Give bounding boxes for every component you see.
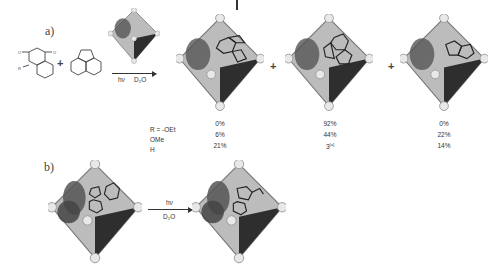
row-label-ome: OMe bbox=[150, 136, 164, 143]
yield-cell: 0% bbox=[429, 120, 459, 127]
condition-light-b: hν bbox=[166, 199, 173, 206]
octahedral-cage-icon bbox=[108, 8, 160, 64]
cage-catalyst-small bbox=[108, 8, 160, 64]
product-cage-3 bbox=[400, 14, 488, 112]
octahedral-cage-icon bbox=[400, 14, 488, 112]
row-label-oet: R = -OEt bbox=[150, 126, 175, 133]
page-edge-mark bbox=[236, 0, 238, 10]
yield-cell: 92% bbox=[315, 120, 345, 127]
product-cage-2 bbox=[285, 14, 373, 112]
reactant-acenaphthylene bbox=[69, 46, 103, 84]
condition-solvent-b: D₂O bbox=[163, 213, 175, 220]
svg-text:O: O bbox=[53, 50, 56, 55]
condition-light: hν bbox=[118, 76, 125, 83]
row-label-h: H bbox=[150, 146, 155, 153]
acenaphthylene-structure-icon bbox=[69, 46, 103, 80]
product-cage-b bbox=[192, 160, 286, 264]
reactant-naphthoquinone: O O R bbox=[15, 45, 60, 87]
plus-sign: + bbox=[388, 60, 394, 72]
footnote-mark: [a] bbox=[330, 142, 334, 147]
panel-a-label: a) bbox=[45, 24, 54, 39]
product-cage-1 bbox=[176, 14, 264, 112]
yield-cell: 14% bbox=[429, 142, 459, 149]
yield-cell: 0% bbox=[205, 120, 235, 127]
condition-solvent: D₂O bbox=[134, 76, 146, 83]
yield-cell: 22% bbox=[429, 131, 459, 138]
plus-sign: + bbox=[57, 57, 63, 69]
svg-text:O: O bbox=[18, 50, 21, 55]
yield-cell: 6% bbox=[205, 131, 235, 138]
yield-cell: 3[a] bbox=[315, 142, 345, 150]
reaction-arrow-a bbox=[112, 73, 156, 74]
yield-cell: 21% bbox=[205, 142, 235, 149]
octahedral-cage-icon bbox=[48, 160, 142, 264]
plus-sign: + bbox=[270, 60, 276, 72]
reaction-arrow-b bbox=[148, 209, 192, 210]
reactant-cage-b bbox=[48, 160, 142, 264]
naphthoquinone-structure-icon: O O R bbox=[15, 45, 60, 83]
octahedral-cage-icon bbox=[192, 160, 286, 264]
octahedral-cage-icon bbox=[176, 14, 264, 112]
svg-text:R: R bbox=[18, 66, 21, 71]
yield-cell: 44% bbox=[315, 131, 345, 138]
octahedral-cage-icon bbox=[285, 14, 373, 112]
